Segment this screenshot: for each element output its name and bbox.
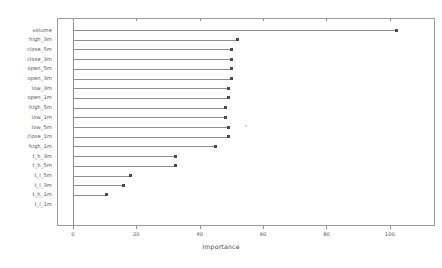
bar-stem [73,98,228,99]
bar-marker [230,58,233,61]
bar-marker [224,106,227,109]
x-tick-mark [200,226,201,229]
bar-stem [73,40,238,41]
stray-artifact [245,125,247,127]
bar-marker [224,116,227,119]
bar-stem [73,88,228,89]
y-axis-label: low_5m [32,125,52,130]
bar-marker [230,77,233,80]
bar-marker [174,164,177,167]
bar-stem [73,137,228,138]
bar-stem [73,185,124,186]
y-axis-label: high_1m [29,144,52,149]
x-tick-mark [73,226,74,229]
y-axis-label: t_l_5m [34,173,52,178]
bar-stem [73,146,216,147]
x-tick-label: 0 [71,231,74,237]
bar-stem [73,69,231,70]
y-axis-label: t_l_1m [34,202,52,207]
bar-stem [73,108,225,109]
bar-marker [227,96,230,99]
y-axis-label: t_l_3m [34,183,52,188]
bar-marker [129,174,132,177]
y-axis-label: low_3m [32,86,52,91]
x-tick-label: 60 [260,231,267,237]
y-axis-tick-labels: volumehigh_3mclose_5mclose_3mopen_5mopen… [0,22,52,226]
y-axis-label: close_1m [27,134,52,139]
x-tick-mark-top [263,18,264,21]
x-tick-mark [390,226,391,229]
y-axis-label: t_h_5m [33,163,52,168]
bar-stem [73,166,176,167]
bar-marker [395,29,398,32]
y-axis-label: volume [32,28,52,33]
y-axis-label: high_3m [29,37,52,42]
x-tick-label: 40 [196,231,203,237]
bar-stem [73,30,396,31]
bar-stem [73,79,231,80]
plot-area [73,22,431,225]
x-tick-mark [326,226,327,229]
bar-stem [73,117,225,118]
x-tick-mark-top [73,18,74,21]
y-axis-label: open_1m [27,95,52,100]
bar-marker [230,48,233,51]
x-tick-label: 100 [385,231,395,237]
bar-stem [73,127,228,128]
x-tick-label: 80 [323,231,330,237]
y-axis-label: open_3m [27,76,52,81]
x-tick-mark-top [200,18,201,21]
x-tick-mark [136,226,137,229]
y-axis-label: t_h_1m [33,192,52,197]
y-axis-label: close_3m [27,57,52,62]
y-axis-label: high_5m [29,105,52,110]
bar-stem [73,49,231,50]
x-tick-label: 20 [133,231,140,237]
x-tick-mark-top [136,18,137,21]
y-axis-label: close_5m [27,47,52,52]
bar-stem [73,176,130,177]
bar-stem [73,59,231,60]
bar-stem [73,156,176,157]
y-axis-label: t_h_3m [33,154,52,159]
x-tick-mark [263,226,264,229]
y-axis-label: low_1m [32,115,52,120]
bar-marker [174,155,177,158]
bar-marker [214,145,217,148]
x-axis-top-ticks [73,18,431,22]
x-tick-mark-top [326,18,327,21]
x-axis-ticks: 020406080100 [73,226,431,230]
x-axis-title: Importance [0,243,442,250]
bar-stem [73,195,106,196]
bar-marker [236,38,239,41]
chart-figure: volumehigh_3mclose_5mclose_3mopen_5mopen… [0,0,442,268]
bar-marker [122,184,125,187]
bar-marker [227,87,230,90]
bar-marker [105,193,108,196]
bar-marker [230,67,233,70]
bar-marker [227,135,230,138]
x-tick-mark-top [390,18,391,21]
y-axis-label: open_5m [27,66,52,71]
bar-marker [227,126,230,129]
